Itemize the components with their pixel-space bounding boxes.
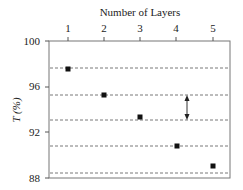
plot-frame	[49, 41, 230, 178]
data-point	[138, 115, 143, 120]
x-tick-label: 5	[210, 22, 216, 34]
y-tick-labels: 100 96 92 88	[24, 35, 41, 184]
data-point	[66, 67, 71, 72]
data-point	[102, 93, 107, 98]
y-tick-label: 100	[24, 35, 41, 47]
x-tick-labels: 1 2 3 4 5	[65, 22, 216, 34]
y-axis-label: T (%)	[10, 97, 23, 122]
x-tick-label: 3	[137, 22, 143, 34]
dashed-reference-lines	[50, 68, 229, 173]
x-axis-label: Number of Layers	[100, 6, 181, 18]
x-tick-label: 2	[101, 22, 107, 34]
chart: Number of Layers 1 2 3 4 5 100 96 92 88 …	[0, 0, 243, 190]
y-tick-label: 92	[29, 126, 40, 138]
y-tick-label: 88	[29, 172, 41, 184]
y-ticks	[45, 41, 49, 178]
double-arrow-annotation	[185, 95, 190, 120]
x-tick-label: 4	[173, 22, 179, 34]
y-tick-label: 96	[29, 80, 41, 92]
data-point	[175, 144, 180, 149]
x-tick-label: 1	[65, 22, 71, 34]
data-points	[66, 67, 216, 169]
data-point	[211, 164, 216, 169]
x-ticks	[68, 37, 213, 41]
